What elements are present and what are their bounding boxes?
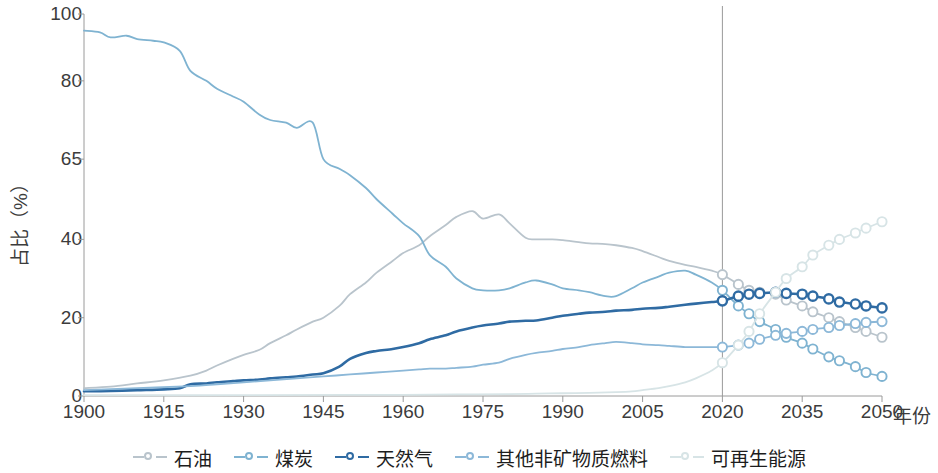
x-tick-label: 1960 [382,401,424,423]
series-marker-other_nonfossil [755,335,764,344]
series-marker-oil [734,280,743,289]
series-oil [84,211,887,388]
series-renewables [84,217,887,395]
series-marker-coal [851,362,860,371]
series-marker-other_nonfossil [861,318,870,327]
legend-marker-icon-oil [133,450,167,464]
series-marker-gas [824,294,833,303]
x-axis-title: 年份 [893,401,931,428]
series-marker-oil [808,307,817,316]
series-marker-coal [734,301,743,310]
x-tick-label: 1900 [63,401,105,423]
x-tick-label: 2005 [621,401,663,423]
series-marker-coal [744,309,753,318]
x-tick-label: 1915 [143,401,185,423]
series-marker-gas [734,292,743,301]
series-marker-oil [861,327,870,336]
series-marker-other_nonfossil [808,325,817,334]
series-marker-other_nonfossil [718,342,727,351]
legend-label-oil: 石油 [174,444,212,471]
legend-label-coal: 煤炭 [275,444,313,471]
series-marker-gas [861,301,870,310]
series-marker-coal [824,352,833,361]
chart-root: 占比（%） 020406580100 190019151930194519601… [0,0,938,473]
legend-label-renewables: 可再生能源 [711,444,806,471]
chart-legend: 石油煤炭天然气其他非矿物质燃料可再生能源 [0,442,938,472]
series-marker-renewables [808,250,817,259]
series-marker-oil [798,301,807,310]
series-marker-renewables [877,217,886,226]
series-marker-gas [744,290,753,299]
series-marker-other_nonfossil [851,319,860,328]
series-coal [84,31,887,381]
series-marker-coal [808,344,817,353]
series-marker-coal [718,286,727,295]
legend-item-coal[interactable]: 煤炭 [234,444,313,471]
series-marker-oil [718,270,727,279]
legend-item-gas[interactable]: 天然气 [335,444,433,471]
series-marker-oil [877,333,886,342]
series-marker-gas [755,289,764,298]
series-other_nonfossil [84,317,887,390]
series-marker-renewables [851,228,860,237]
series-marker-coal [835,356,844,365]
legend-marker-icon-gas [335,450,369,464]
series-marker-renewables [782,274,791,283]
series-marker-renewables [744,327,753,336]
series-marker-other_nonfossil [824,323,833,332]
legend-marker-icon-other_nonfossil [455,450,489,464]
series-marker-gas [851,299,860,308]
x-tick-label: 2020 [701,401,743,423]
series-marker-renewables [755,309,764,318]
series-marker-renewables [718,358,727,367]
series-line-oil [84,211,882,388]
legend-label-gas: 天然气 [376,444,433,471]
x-tick-label: 2035 [781,401,823,423]
series-marker-renewables [861,224,870,233]
series-marker-other_nonfossil [835,321,844,330]
series-marker-coal [798,339,807,348]
legend-item-oil[interactable]: 石油 [133,444,212,471]
x-tick-label: 1990 [542,401,584,423]
legend-item-renewables[interactable]: 可再生能源 [670,444,806,471]
series-marker-renewables [771,288,780,297]
series-marker-renewables [835,235,844,244]
x-tick-label: 1945 [302,401,344,423]
legend-item-other_nonfossil[interactable]: 其他非矿物质燃料 [455,444,648,471]
series-marker-oil [824,313,833,322]
x-axis-tick-labels: 1900191519301945196019751990200520202035… [0,401,938,431]
series-marker-gas [835,297,844,306]
series-marker-other_nonfossil [877,317,886,326]
series-marker-gas [782,289,791,298]
series-marker-other_nonfossil [744,339,753,348]
series-marker-coal [861,368,870,377]
series-marker-gas [798,290,807,299]
series-line-renewables [84,222,882,396]
series-marker-gas [808,292,817,301]
series-marker-coal [877,372,886,381]
series-marker-gas [718,296,727,305]
series-marker-renewables [798,262,807,271]
series-line-other_nonfossil [84,322,882,391]
x-tick-label: 1930 [222,401,264,423]
series-marker-other_nonfossil [798,327,807,336]
legend-label-other_nonfossil: 其他非矿物质燃料 [496,444,648,471]
series-marker-other_nonfossil [782,329,791,338]
series-marker-renewables [824,241,833,250]
series-marker-gas [877,303,886,312]
legend-marker-icon-coal [234,450,268,464]
legend-marker-icon-renewables [670,450,704,464]
series-marker-renewables [734,340,743,349]
x-tick-label: 1975 [462,401,504,423]
series-marker-other_nonfossil [771,331,780,340]
